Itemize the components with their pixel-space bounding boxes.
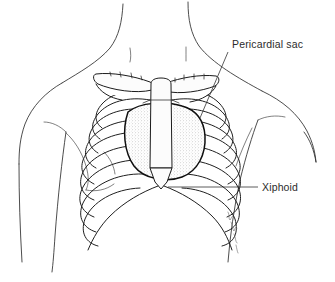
chest-anatomy-illustration: Pericardial sac Xiphoid: [0, 0, 335, 282]
anatomical-figure: Pericardial sac Xiphoid: [0, 0, 335, 282]
label-xiphoid: Xiphoid: [262, 181, 298, 193]
sternum: [150, 78, 172, 189]
xiphoid-process: [150, 168, 172, 189]
sternum-body: [150, 78, 172, 168]
label-pericardial-sac: Pericardial sac: [232, 38, 303, 50]
